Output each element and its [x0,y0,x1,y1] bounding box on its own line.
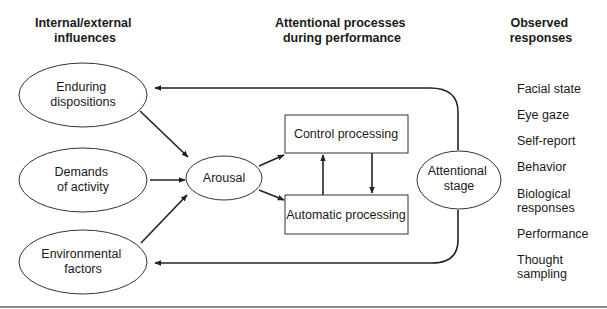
arrow-enduring-to-arousal [140,111,188,157]
node-attentional-stage: Attentional stage [417,151,501,209]
node-environmental-factors: Environmental factors [19,230,147,294]
observed-responses-list: Facial state Eye gaze Self-report Behavi… [517,82,589,281]
response-eye-gaze: Eye gaze [517,108,569,122]
response-performance: Performance [517,227,589,241]
svg-text:Enduring dispositions: Enduring dispositions [50,80,115,109]
response-self-report: Self-report [517,134,576,148]
response-biological: Biological responses [517,187,575,215]
header-processes: Attentional processes during performance [275,16,409,45]
node-arousal: Arousal [186,156,262,200]
header-influences: Internal/external influences [35,16,135,45]
svg-text:Automatic processing: Automatic processing [286,208,406,222]
node-automatic-processing: Automatic processing [285,195,408,234]
arrow-environmental-to-arousal [141,195,187,243]
response-behavior: Behavior [517,160,566,174]
arrow-arousal-to-automatic [259,190,284,200]
arrow-arousal-to-control [259,155,284,166]
header-responses: Observed responses [510,16,573,45]
svg-text:Arousal: Arousal [203,171,245,185]
attention-model-diagram: Internal/external influences Attentional… [0,0,607,309]
response-thought-sampling: Thought sampling [517,253,567,281]
response-facial-state: Facial state [517,82,581,96]
node-demands-of-activity: Demands of activity [19,148,147,212]
node-enduring-dispositions: Enduring dispositions [19,63,147,127]
node-control-processing: Control processing [285,115,408,153]
svg-text:Control processing: Control processing [294,127,398,141]
svg-text:Demands of activity: Demands of activity [55,165,112,194]
